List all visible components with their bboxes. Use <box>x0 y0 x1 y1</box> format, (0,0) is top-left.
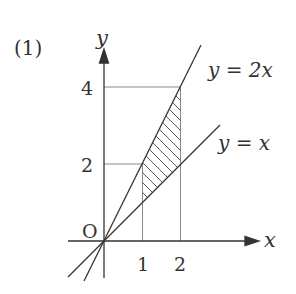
label-y-2x: y = 2x <box>207 58 273 82</box>
tick-y-4: 4 <box>81 77 93 99</box>
hatching <box>130 30 200 250</box>
label-y-x: y = x <box>217 131 270 155</box>
line-y-2x <box>84 45 201 281</box>
x-axis-label: x <box>264 228 276 252</box>
tick-y-2: 2 <box>81 154 93 176</box>
problem-label: (1) <box>14 36 42 60</box>
graph: (1) y x O 4 2 1 2 y = 2x y = x <box>0 0 296 294</box>
x-axis-arrow-icon <box>245 237 259 246</box>
y-axis-label: y <box>95 26 109 50</box>
origin-label: O <box>82 220 98 242</box>
tick-x-2: 2 <box>174 253 186 275</box>
y-axis-arrow-icon <box>100 49 109 63</box>
tick-x-1: 1 <box>137 253 149 275</box>
